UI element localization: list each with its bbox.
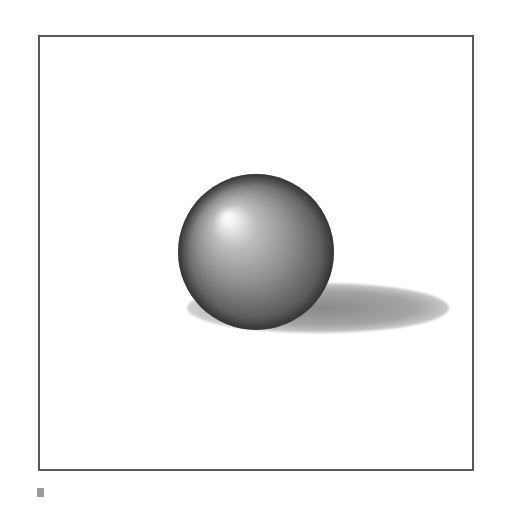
small-grey-square-marker	[37, 488, 44, 497]
sphere-rim-shading	[178, 174, 334, 330]
sphere-illustration	[0, 0, 508, 505]
